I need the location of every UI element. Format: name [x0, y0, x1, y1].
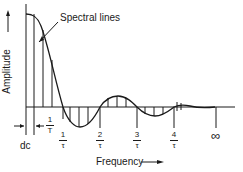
tick-label-4-tau: 4 τ [169, 131, 179, 150]
tick-label-3-tau: 3 τ [132, 131, 142, 150]
tick-label-1-tau: 1 τ [58, 131, 68, 150]
spectrum-plot [0, 0, 243, 172]
spectral-lines [34, 14, 181, 127]
spacing-label: 1 T [45, 116, 55, 135]
x-axis-label: Frequency [96, 157, 143, 167]
spectral-lines-annotation: Spectral lines [60, 13, 120, 23]
infinity-label: ∞ [211, 131, 220, 141]
sinc-envelope [26, 14, 215, 127]
spectrum-diagram: Amplitude Spectral lines dc 1 T 1 τ 2 τ … [0, 0, 243, 172]
y-axis-label: Amplitude [1, 49, 12, 93]
dc-label: dc [20, 141, 31, 151]
tick-label-2-tau: 2 τ [95, 131, 105, 150]
spacing-markers [14, 107, 44, 135]
